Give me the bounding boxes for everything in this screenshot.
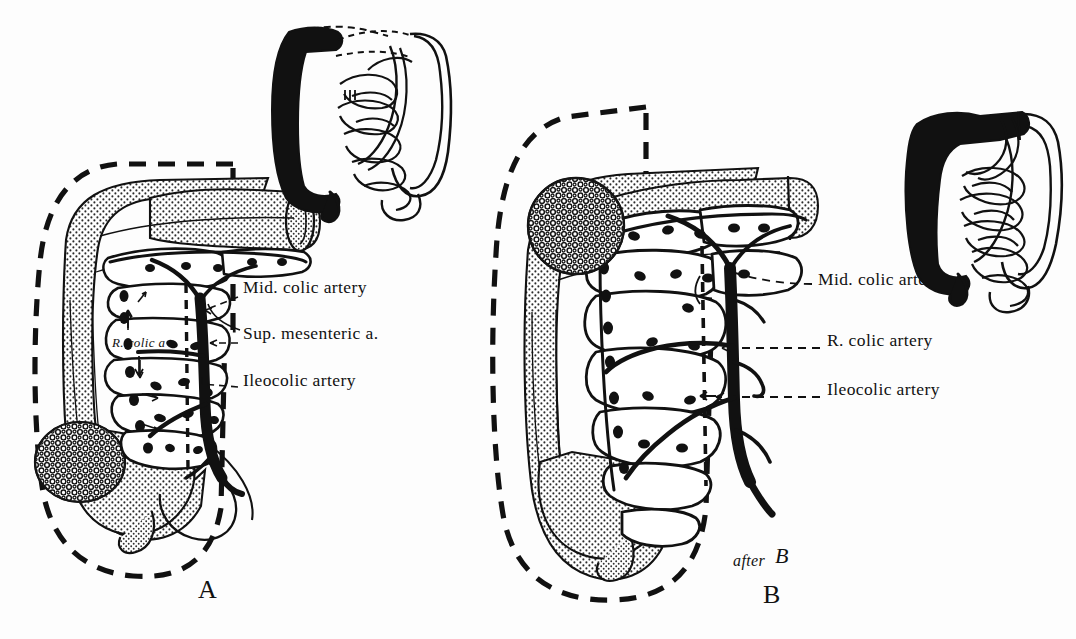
sma-distal-b bbox=[750, 482, 772, 514]
inset-a-small-bowel bbox=[338, 58, 412, 210]
panel-b-group bbox=[493, 107, 820, 600]
mesentery-arcade-b bbox=[585, 206, 802, 547]
signature-after-text: after bbox=[733, 553, 765, 569]
anatomical-illustration bbox=[0, 0, 1076, 639]
inset-a-sigmoid bbox=[382, 194, 421, 220]
panel-letter-a: A bbox=[198, 577, 217, 603]
label-r-colic-a: R. colic a bbox=[112, 336, 165, 349]
inset-a-resected-segment bbox=[272, 28, 342, 213]
label-mid-colic-artery-b: Mid. colic artery bbox=[818, 271, 942, 289]
inset-b-sigmoid bbox=[990, 286, 1029, 312]
sma-side-branch-b3 bbox=[735, 300, 764, 322]
label-mid-colic-artery-a: Mid. colic artery bbox=[243, 279, 367, 297]
label-ileocolic-artery-b: Ileocolic artery bbox=[827, 381, 940, 399]
panel-letter-b: B bbox=[763, 582, 780, 608]
label-ileocolic-artery-a: Ileocolic artery bbox=[243, 372, 356, 390]
signature-monogram: B bbox=[775, 545, 789, 567]
figure-root: Mid. colic artery Sup. mesenteric a. Ile… bbox=[0, 0, 1076, 639]
label-sup-mesenteric-a: Sup. mesenteric a. bbox=[243, 325, 379, 343]
sma-distal-a bbox=[222, 478, 242, 494]
inset-a-descending-colon bbox=[410, 36, 442, 188]
inset-b-descending bbox=[1018, 126, 1051, 274]
inset-a-group bbox=[272, 27, 451, 222]
label-r-colic-artery-b: R. colic artery bbox=[827, 332, 933, 350]
